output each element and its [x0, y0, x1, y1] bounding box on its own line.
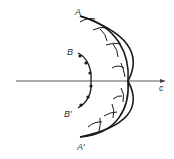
wavefront-diagram: A A′ B B′ c — [0, 0, 174, 159]
inner-wavefront-arc — [78, 53, 91, 108]
label-a-prime: A′ — [76, 142, 85, 152]
label-b-prime: B′ — [64, 109, 72, 119]
label-a: A — [74, 7, 81, 17]
label-b: B — [67, 47, 73, 57]
label-c: c — [159, 83, 164, 93]
